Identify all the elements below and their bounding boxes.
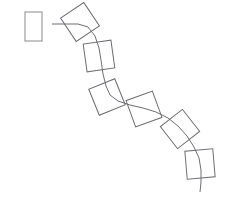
sweep-path-curve	[52, 24, 201, 192]
sweep-path-layer	[52, 24, 201, 192]
source-profile-rectangle	[25, 12, 42, 41]
profile-frame-3	[89, 79, 125, 115]
sweep-diagram	[0, 0, 227, 203]
source-profile-layer	[25, 12, 42, 41]
diagram-canvas	[0, 0, 227, 203]
profile-frame-1	[61, 3, 100, 42]
profile-frame-4	[126, 91, 162, 127]
profile-frame-2	[83, 40, 115, 72]
profile-frame-5	[160, 109, 199, 148]
profile-frames-layer	[61, 3, 216, 180]
